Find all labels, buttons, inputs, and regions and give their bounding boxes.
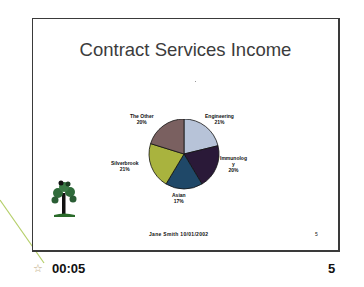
pie-chart [148,119,288,229]
slide-footer: Jane Smith 10/01/2002 [149,231,208,237]
slide-number: 5 [328,261,335,276]
slide-page-number: 5 [315,231,318,237]
star-icon[interactable]: ☆ [33,262,43,275]
label-immunology: Immunology20% [220,155,247,173]
label-engineering: Engineering21% [205,113,234,125]
slide-timing: 00:05 [52,261,85,276]
slide-thumbnail[interactable]: Contract Services Income The Other20% En… [32,18,340,252]
tree-clipart-icon [49,179,79,221]
label-silverbrook: Silverbrook21% [111,160,139,172]
stray-dot [195,81,196,82]
label-the-other: The Other20% [130,113,154,125]
slide-title: Contract Services Income [33,39,338,61]
label-asian: Asian17% [172,192,186,204]
